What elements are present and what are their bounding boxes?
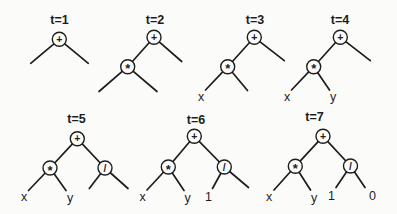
op-symbol: +	[337, 31, 343, 43]
tree-step-label: t=5	[67, 112, 85, 126]
op-symbol: +	[56, 33, 62, 45]
leaf-label: 0	[369, 189, 376, 203]
tree-step-label: t=6	[187, 113, 205, 127]
leaf-label: x	[284, 90, 291, 104]
leaf-label: 1	[205, 190, 212, 204]
tree-t6: t=6+*/xy1	[140, 113, 249, 205]
leaf-label: 1	[328, 189, 335, 203]
tree-t3: t=3+*x	[198, 13, 284, 104]
leaf-label: x	[21, 190, 28, 204]
tree-t2: t=2+*	[99, 13, 182, 92]
op-symbol: +	[151, 31, 157, 43]
op-symbol: +	[191, 130, 197, 142]
op-symbol: /	[223, 161, 226, 173]
leaf-label: x	[266, 190, 273, 204]
leaf-label: x	[140, 190, 147, 204]
figure-canvas: t=1+t=2+*t=3+*xt=4+*xyt=5+*/xyt=6+*/xy1t…	[0, 0, 397, 214]
tree-step-label: t=7	[305, 110, 323, 124]
op-symbol: +	[320, 130, 326, 142]
op-symbol: /	[349, 160, 352, 172]
tree-step-label: t=1	[50, 13, 68, 27]
expression-trees-diagram: t=1+t=2+*t=3+*xt=4+*xyt=5+*/xyt=6+*/xy1t…	[0, 0, 397, 214]
leaf-label: y	[67, 191, 74, 205]
leaf-label: x	[198, 90, 205, 104]
leaf-label: y	[185, 191, 192, 205]
leaf-label: y	[311, 191, 318, 205]
tree-t5: t=5+*/xy	[21, 112, 128, 205]
op-symbol: /	[104, 162, 107, 174]
op-symbol: +	[251, 31, 257, 43]
tree-step-label: t=4	[331, 13, 349, 27]
tree-t7: t=7+*/xy10	[266, 110, 376, 205]
tree-t4: t=4+*xy	[284, 13, 370, 104]
tree-t1: t=1+	[31, 13, 89, 63]
tree-step-label: t=3	[246, 13, 264, 27]
tree-step-label: t=2	[146, 13, 164, 27]
leaf-label: y	[330, 90, 337, 104]
op-symbol: +	[74, 132, 80, 144]
